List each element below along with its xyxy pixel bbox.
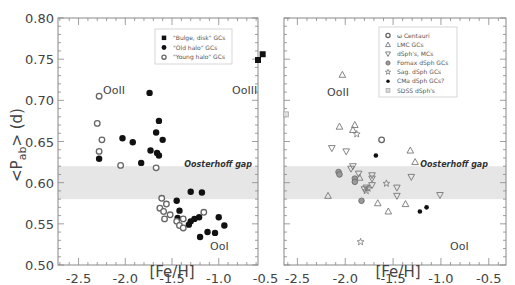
data-point [197, 234, 203, 240]
data-point [216, 214, 222, 220]
data-point [159, 196, 165, 202]
legend-entry: dSph's, MCs [397, 50, 433, 58]
data-point [353, 131, 360, 138]
data-point [156, 152, 162, 158]
y-tick-label: 0.65 [25, 135, 54, 150]
data-point [407, 147, 414, 153]
legend: ω CentauriLMC GCsdSph's, MCsFornax dSph … [379, 27, 457, 97]
series-0 [255, 51, 266, 63]
series-6 [283, 112, 288, 117]
data-point [161, 209, 167, 215]
data-point [167, 212, 173, 218]
right-panel: -2.5-2.0-1.5-1.0-0.5Oosterhoff gapOoIIOo… [283, 18, 506, 285]
data-point [156, 118, 162, 124]
data-point [343, 149, 350, 155]
data-point [339, 71, 346, 77]
y-axis-title: <Pab> (d) [8, 108, 29, 182]
data-point [159, 137, 165, 143]
y-tick-label: 0.55 [25, 217, 54, 232]
data-point [94, 121, 100, 127]
x-axis-title-left: [Fe/H] [149, 263, 194, 281]
legend-entry: "Bulge, disk" GCs [173, 34, 225, 42]
left-panel: -2.5-2.0-1.5-1.0-0.50.800.750.700.650.60… [25, 11, 278, 285]
data-point [130, 139, 136, 145]
legend-entry: "Old halo" GCs [173, 44, 217, 51]
data-point [283, 112, 288, 117]
x-tick-label: -1.0 [206, 271, 231, 285]
data-point [180, 216, 186, 222]
data-point [204, 229, 210, 235]
x-tick-label: -1.0 [428, 271, 453, 285]
x-tick-label: -2.0 [333, 271, 358, 285]
data-point [96, 93, 102, 99]
data-point [199, 189, 205, 195]
oosterhoff-gap-label: Oosterhoff gap [184, 160, 252, 169]
x-axis-title-right: [Fe/H] [375, 263, 420, 281]
legend-entry: ω Centauri [397, 32, 430, 39]
data-point [212, 230, 218, 236]
data-point [180, 225, 186, 231]
data-point [96, 149, 102, 155]
legend-entry: Fornax dSph GCs [397, 59, 448, 67]
region-label-ooiii: OoIII [232, 84, 257, 97]
data-point [186, 221, 192, 227]
y-tick-label: 0.80 [25, 11, 54, 26]
data-point [379, 137, 385, 143]
data-point [424, 205, 429, 210]
x-tick-label: -2.5 [285, 271, 310, 285]
data-point [147, 147, 153, 153]
data-point [96, 156, 102, 162]
data-point [173, 198, 179, 204]
legend-entry: Sag. dSph GCs [397, 68, 441, 76]
data-point [119, 135, 125, 141]
region-label-ooi: OoI [210, 240, 229, 253]
data-point [336, 123, 343, 129]
region-label-ooii: OoII [327, 86, 349, 99]
y-tick-label: 0.60 [25, 176, 54, 191]
legend-entry: "Young halo" GCs [173, 53, 225, 61]
data-point [357, 238, 364, 245]
data-point [374, 200, 381, 206]
data-point [188, 189, 194, 195]
data-point [412, 159, 419, 165]
data-point [352, 179, 358, 185]
data-point [118, 163, 124, 169]
x-tick-label: -2.5 [66, 271, 91, 285]
data-point [221, 222, 227, 228]
data-point [418, 209, 423, 214]
data-point [146, 90, 152, 96]
data-point [162, 216, 168, 222]
data-point [153, 165, 159, 171]
data-point [201, 210, 207, 216]
data-point [329, 146, 336, 152]
data-point [153, 129, 159, 135]
chart-figure: -2.5-2.0-1.5-1.0-0.50.800.750.700.650.60… [0, 0, 515, 285]
legend-entry: LMC GCs [397, 41, 424, 48]
x-tick-label: -0.5 [476, 271, 501, 285]
legend-entry: CMa dSph GCs? [397, 77, 444, 85]
data-point [260, 51, 266, 57]
data-point [255, 57, 261, 63]
oosterhoff-gap-band [284, 166, 506, 199]
data-point [359, 198, 365, 204]
data-point [196, 214, 202, 220]
oosterhoff-gap-band [58, 166, 258, 199]
data-point [164, 201, 170, 207]
data-point [374, 153, 379, 158]
legend-entry: SDSS dSph's [397, 87, 435, 95]
y-tick-label: 0.70 [25, 93, 54, 108]
data-point [138, 160, 144, 166]
y-tick-label: 0.50 [25, 258, 54, 273]
x-tick-label: -0.5 [253, 271, 278, 285]
data-point [176, 207, 182, 213]
region-label-ooii: OoII [103, 84, 125, 97]
series-0 [379, 137, 385, 143]
oosterhoff-gap-label: Oosterhoff gap [420, 160, 488, 169]
legend: "Bulge, disk" GCs"Old halo" GCs"Young ha… [155, 29, 232, 64]
x-tick-label: -2.0 [113, 271, 138, 285]
data-point [337, 172, 343, 178]
data-point [385, 208, 392, 214]
region-label-ooi: OoI [450, 240, 469, 253]
data-point [99, 137, 105, 143]
data-point [402, 201, 409, 207]
